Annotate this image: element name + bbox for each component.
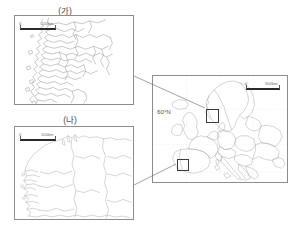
panel-a-faint-mark-1: · [23, 60, 25, 65]
locator-scale-tick-start [246, 85, 247, 89]
panel-b-scale-tick-start [20, 136, 21, 140]
panel-a-map: 0 100km · · · · [14, 15, 134, 105]
panel-a-faint-mark-3: · [23, 80, 25, 85]
panel-b-scale-tick-end [55, 136, 56, 140]
locator-scale-max: 500km [265, 81, 278, 86]
panel-a-scale-line [20, 28, 56, 30]
panel-b-map: 0 100km · · · [14, 126, 134, 220]
europe-locator-map: 60°N 0 500km [152, 75, 288, 183]
panel-b-faint-mark-1: · · · [24, 150, 36, 155]
inset-marker-norway [206, 109, 219, 123]
inset-marker-galicia [177, 159, 189, 171]
panel-b-scale-line [20, 139, 56, 141]
panel-a-scale-tick-end [55, 25, 56, 29]
panel-b-label: (나) [50, 113, 90, 125]
figure-root: (가) [0, 0, 292, 234]
europe-outline-drawing [153, 76, 287, 182]
locator-scale-line [246, 88, 280, 90]
panel-a-scale-tick-start [20, 25, 21, 29]
ria-coastline-drawing [15, 127, 133, 219]
panel-a-scale-max: 100km [41, 21, 54, 26]
panel-a-faint-mark-4: · [24, 90, 26, 95]
locator-scale-tick-end [279, 85, 280, 89]
panel-b-scale-max: 100km [41, 132, 54, 137]
panel-a-faint-mark-2: · [22, 72, 24, 77]
latitude-60n-label: 60°N [157, 108, 171, 115]
